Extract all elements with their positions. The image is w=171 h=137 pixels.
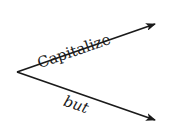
branching-arrow-diagram xyxy=(0,0,171,137)
